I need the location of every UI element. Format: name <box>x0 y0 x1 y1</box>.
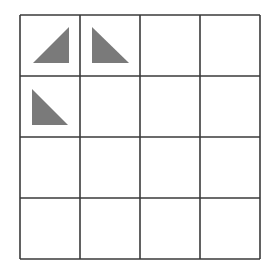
triangle-icon <box>32 89 68 125</box>
triangle-icon <box>92 27 129 63</box>
triangle-icon <box>33 27 69 63</box>
grid-diagram <box>0 0 271 272</box>
